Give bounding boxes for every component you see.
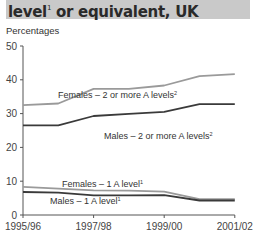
series-label: Females – 2 or more A levels2 bbox=[58, 90, 177, 100]
series-label-footnote: 2 bbox=[210, 131, 213, 137]
series-label: Females – 1 A level1 bbox=[62, 179, 143, 189]
x-tick-label: 1997/98 bbox=[76, 221, 113, 232]
series-label-footnote: 2 bbox=[174, 90, 177, 96]
y-tick-label: 10 bbox=[6, 176, 18, 187]
series-label-footnote: 1 bbox=[140, 179, 143, 185]
y-tick-label: 50 bbox=[6, 41, 18, 52]
line-chart: 010203040501995/961997/981999/002001/02F… bbox=[0, 0, 254, 241]
y-tick-label: 30 bbox=[6, 108, 18, 119]
y-tick-label: 20 bbox=[6, 142, 18, 153]
x-tick-label: 1995/96 bbox=[5, 221, 42, 232]
series-line bbox=[23, 104, 235, 125]
series-label: Males – 2 or more A levels2 bbox=[104, 131, 213, 141]
x-tick-label: 2001/02 bbox=[217, 221, 254, 232]
x-tick-label: 1999/00 bbox=[146, 221, 183, 232]
y-tick-label: 40 bbox=[6, 74, 18, 85]
series-label-footnote: 1 bbox=[118, 196, 121, 202]
series-label: Males – 1 A level1 bbox=[50, 196, 121, 206]
y-tick-label: 0 bbox=[11, 210, 17, 221]
